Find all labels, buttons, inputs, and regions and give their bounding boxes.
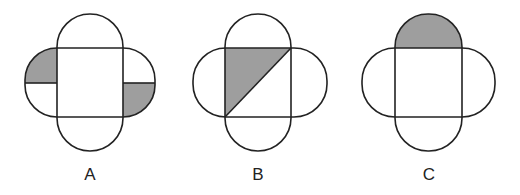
option-c-figure[interactable] [362,14,495,151]
option-b-label: B [252,166,263,183]
option-a-figure[interactable] [25,14,155,151]
option-c-horizontal-capsule [362,48,495,117]
option-a-shade-left [25,48,57,83]
option-c-label: C [423,166,435,183]
option-a-label: A [84,166,95,183]
option-c-shade-top [395,14,462,48]
option-a-vertical-capsule [57,14,123,151]
option-b-figure[interactable] [193,14,327,151]
